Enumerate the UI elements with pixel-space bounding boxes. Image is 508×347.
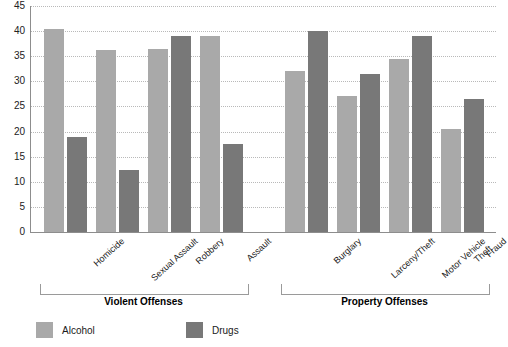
group-bracket-1 (281, 284, 490, 295)
legend-swatch-alcohol (36, 322, 53, 338)
bar-alcohol-sexual-assault (96, 50, 116, 232)
x-label-assault: Assault (245, 236, 274, 263)
x-label-homicide: Homicide (92, 236, 127, 269)
bar-alcohol-robbery (148, 49, 168, 232)
group-label-violent-offenses: Violent Offenses (40, 296, 247, 307)
y-tick-label-15: 15 (14, 152, 25, 162)
legend-swatch-drugs (186, 322, 203, 338)
x-label-fraud: Fraud (484, 236, 508, 259)
legend-item-alcohol[interactable]: Alcohol (36, 322, 95, 338)
plot-inner (30, 6, 496, 232)
bar-drugs-assault (223, 144, 243, 232)
x-label-larceny-theft: Larceny/Theft (389, 236, 437, 280)
plot-area (30, 6, 496, 232)
y-tick-label-0: 0 (19, 227, 25, 237)
group-label-property-offenses: Property Offenses (281, 296, 488, 307)
x-axis-line (30, 232, 496, 233)
bar-alcohol-burglary (285, 71, 305, 232)
bar-alcohol-larceny-theft (337, 96, 357, 232)
bar-drugs-robbery (171, 36, 191, 232)
y-tick-label-40: 40 (14, 26, 25, 36)
bar-alcohol-motor-vehicle-theft (389, 59, 409, 232)
bar-drugs-motor-vehicle-theft (412, 36, 432, 232)
bar-drugs-homicide (67, 137, 87, 232)
bar-alcohol-assault (200, 36, 220, 232)
bar-drugs-fraud (464, 99, 484, 232)
x-label-robbery: Robbery (194, 236, 226, 266)
y-axis-tick-labels: 454035302520151050 (0, 6, 25, 232)
x-label-motor-vehicle-theft: Motor VehicleTheft (440, 236, 494, 287)
y-tick-label-45: 45 (14, 1, 25, 11)
x-label-sexual-assault: Sexual Assault (149, 236, 200, 283)
y-tick-label-30: 30 (14, 76, 25, 86)
x-label-burglary: Burglary (331, 236, 363, 266)
y-tick-label-5: 5 (19, 202, 25, 212)
chart-legend: AlcoholDrugs (0, 320, 502, 346)
group-bracket-0 (40, 284, 249, 295)
legend-label-drugs: Drugs (212, 325, 239, 336)
bar-drugs-larceny-theft (360, 74, 380, 232)
legend-item-drugs[interactable]: Drugs (186, 322, 239, 338)
bar-alcohol-fraud (441, 129, 461, 232)
x-axis-category-labels: HomicideSexual AssaultRobberyAssaultBurg… (30, 234, 496, 286)
bar-drugs-burglary (308, 31, 328, 232)
bars-layer (30, 6, 496, 232)
bar-drugs-sexual-assault (119, 170, 139, 232)
bar-alcohol-homicide (44, 29, 64, 232)
legend-label-alcohol: Alcohol (62, 325, 95, 336)
y-tick-label-20: 20 (14, 127, 25, 137)
y-tick-label-10: 10 (14, 177, 25, 187)
y-tick-label-35: 35 (14, 51, 25, 61)
y-tick-label-25: 25 (14, 101, 25, 111)
